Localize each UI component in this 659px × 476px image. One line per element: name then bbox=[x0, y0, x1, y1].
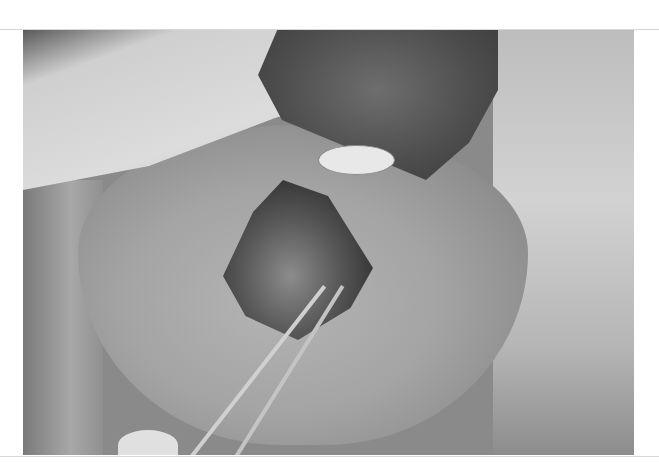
white-dressing bbox=[318, 145, 395, 175]
gloved-hand bbox=[118, 430, 178, 455]
surgical-photograph: Grayscale clinical photograph of a surgi… bbox=[23, 30, 634, 455]
bottom-border-line bbox=[0, 456, 659, 457]
